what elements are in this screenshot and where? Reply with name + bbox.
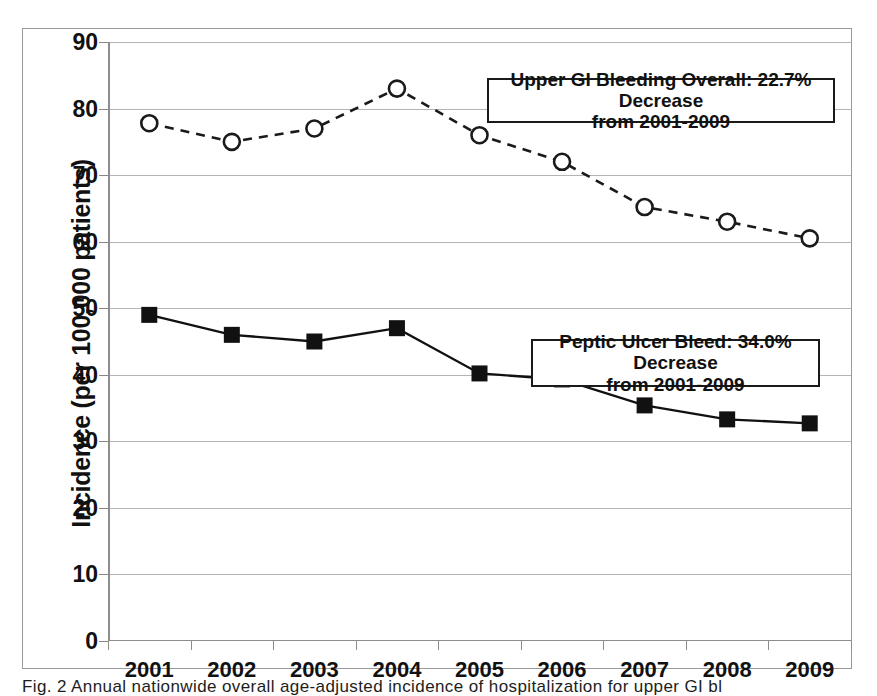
y-axis-tick-mark: [99, 175, 108, 176]
y-axis-tick-mark: [99, 441, 108, 442]
y-axis-tick-mark: [99, 42, 108, 43]
data-point-marker: [472, 365, 488, 381]
annotation-peptic-line2: from 2001-2009: [606, 374, 744, 395]
data-point-marker: [554, 154, 570, 170]
y-axis-tick-label: 60: [72, 228, 98, 255]
y-axis-tick-mark: [99, 641, 108, 642]
data-point-marker: [802, 415, 818, 431]
y-axis-tick-label: 90: [72, 29, 98, 56]
y-axis-tick-label: 10: [72, 561, 98, 588]
data-point-marker: [719, 214, 735, 230]
data-point-marker: [141, 115, 157, 131]
y-axis-tick-mark: [99, 242, 108, 243]
data-point-marker: [141, 307, 157, 323]
y-axis-tick-mark: [99, 375, 108, 376]
y-axis-tick-labels: 0102030405060708090: [42, 42, 98, 641]
data-point-marker: [802, 230, 818, 246]
y-axis-tick-mark: [99, 109, 108, 110]
data-point-marker: [389, 81, 405, 97]
annotation-peptic-ulcer-bleed: Peptic Ulcer Bleed: 34.0% Decrease from …: [531, 339, 820, 387]
data-point-marker: [389, 320, 405, 336]
chart-figure-frame: Incidence (per 100,000 patients) 0102030…: [22, 28, 852, 669]
figure-caption: Fig. 2 Annual nationwide overall age-adj…: [22, 676, 862, 696]
y-axis-tick-label: 50: [72, 295, 98, 322]
annotation-upper-gi-bleeding: Upper GI Bleeding Overall: 22.7% Decreas…: [487, 78, 835, 123]
y-axis-tick-label: 80: [72, 95, 98, 122]
data-point-marker: [472, 127, 488, 143]
x-axis-tick-mark: [273, 641, 274, 650]
x-axis-tick-mark: [521, 641, 522, 650]
data-point-marker: [637, 199, 653, 215]
x-axis-tick-mark: [603, 641, 604, 650]
y-axis-tick-mark: [99, 308, 108, 309]
data-point-marker: [224, 134, 240, 150]
x-axis-tick-mark: [108, 641, 109, 650]
y-axis-tick-mark: [99, 508, 108, 509]
data-point-marker: [306, 334, 322, 350]
annotation-upper-gi-line1: Upper GI Bleeding Overall: 22.7% Decreas…: [492, 69, 830, 112]
data-point-marker: [306, 121, 322, 137]
x-axis-tick-mark: [851, 641, 852, 650]
annotation-upper-gi-line2: from 2001-2009: [592, 111, 730, 132]
y-axis-tick-mark: [99, 574, 108, 575]
x-axis-tick-mark: [686, 641, 687, 650]
y-axis-tick-label: 20: [72, 494, 98, 521]
y-axis-tick-label: 30: [72, 428, 98, 455]
annotation-peptic-line1: Peptic Ulcer Bleed: 34.0% Decrease: [536, 331, 815, 374]
x-axis-tick-mark: [356, 641, 357, 650]
x-axis-tick-mark: [438, 641, 439, 650]
x-axis-tick-mark: [768, 641, 769, 650]
data-point-marker: [637, 397, 653, 413]
data-point-marker: [719, 411, 735, 427]
y-axis-tick-label: 70: [72, 162, 98, 189]
y-axis-tick-label: 0: [85, 628, 98, 655]
y-axis-tick-label: 40: [72, 361, 98, 388]
x-axis-tick-mark: [191, 641, 192, 650]
data-point-marker: [224, 327, 240, 343]
